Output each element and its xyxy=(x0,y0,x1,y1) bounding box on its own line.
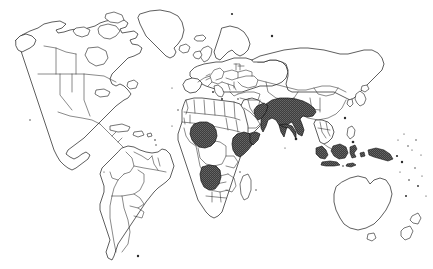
island-pacific-6 xyxy=(420,154,421,155)
island-pacific-3 xyxy=(415,139,416,140)
island-falklands xyxy=(137,255,139,257)
island-pacific-10 xyxy=(425,195,426,196)
island-puerto-rico xyxy=(147,133,152,137)
highlight-java xyxy=(321,161,340,166)
island-mauritius xyxy=(255,189,256,190)
island-azores xyxy=(171,87,172,88)
island-fiji xyxy=(417,185,419,187)
island-cape-verde xyxy=(171,125,172,126)
island-pacific-5 xyxy=(411,149,412,150)
island-pacific-7 xyxy=(397,139,398,140)
island-lesser-antilles xyxy=(154,139,156,141)
world-map-svg xyxy=(0,0,433,269)
island-pacific-8 xyxy=(421,175,422,176)
world-map-figure: World Map Outline world map with selecte… xyxy=(0,0,433,269)
island-png-east xyxy=(396,155,398,157)
island-vanuatu xyxy=(408,179,410,181)
island-antilles-2 xyxy=(155,144,156,145)
island-pacific-1 xyxy=(414,167,415,168)
island-sardinia xyxy=(212,91,214,93)
island-pacific-4 xyxy=(403,133,404,134)
island-pacific-2 xyxy=(407,145,408,146)
island-new-caledonia xyxy=(405,195,407,197)
island-bali xyxy=(342,165,344,167)
island-novaya-zemlya xyxy=(271,35,273,37)
island-iceland xyxy=(194,35,206,41)
island-hawaii xyxy=(29,119,30,120)
island-pacific-9 xyxy=(399,171,400,172)
island-maldives xyxy=(284,147,285,148)
island-taiwan xyxy=(344,117,346,119)
island-crete xyxy=(237,98,239,100)
island-philippines-south xyxy=(352,141,355,144)
highlight-maluku xyxy=(360,152,365,157)
island-sicily xyxy=(221,98,223,100)
island-comoros xyxy=(239,171,240,172)
island-svalbard xyxy=(231,13,233,15)
island-galapagos xyxy=(103,171,104,172)
island-canary xyxy=(177,109,178,110)
island-solomon xyxy=(401,161,403,163)
